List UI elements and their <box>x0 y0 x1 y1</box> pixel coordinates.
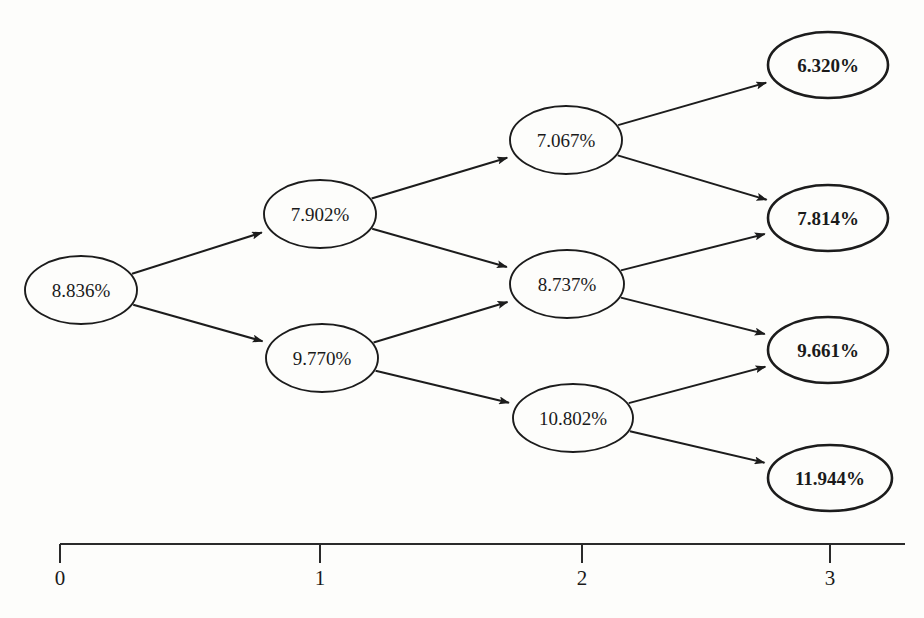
node-rate-label: 10.802% <box>539 408 607 429</box>
axis-tick-label-1: 1 <box>315 566 326 590</box>
tree-edge-n1d-to-n2ud <box>374 302 508 342</box>
tree-node-n1u[interactable]: 7.902% <box>264 180 376 248</box>
tree-diagram-canvas: 8.836%7.902%9.770%7.067%8.737%10.802%6.3… <box>0 0 924 618</box>
tree-edge-n2dd-to-n3d <box>630 431 765 462</box>
tree-node-n2ud[interactable]: 8.737% <box>510 250 624 318</box>
tree-edge-n2ud-to-n3b <box>621 234 765 270</box>
tree-edge-n2ud-to-n3c <box>621 298 765 334</box>
tree-edge-n1u-to-n2ud <box>372 229 507 267</box>
tree-node-n3c[interactable]: 9.661% <box>768 317 888 383</box>
tree-node-n3b[interactable]: 7.814% <box>768 185 888 251</box>
node-rate-label: 7.067% <box>537 130 596 151</box>
tree-edge-n1d-to-n2dd <box>376 371 509 403</box>
tree-node-n3d[interactable]: 11.944% <box>768 445 892 511</box>
axis-tick-label-0: 0 <box>55 566 66 590</box>
tree-nodes-group: 8.836%7.902%9.770%7.067%8.737%10.802%6.3… <box>25 32 892 511</box>
node-rate-label: 6.320% <box>797 55 859 76</box>
tree-node-n2uu[interactable]: 7.067% <box>510 106 622 174</box>
tree-edge-n2uu-to-n3b <box>618 155 767 199</box>
node-rate-label: 7.814% <box>797 208 859 229</box>
node-rate-label: 9.661% <box>797 340 859 361</box>
tree-node-n1d[interactable]: 9.770% <box>266 324 378 392</box>
tree-node-n0[interactable]: 8.836% <box>25 256 137 324</box>
tree-node-n2dd[interactable]: 10.802% <box>513 384 633 452</box>
tree-edges-group <box>132 83 767 463</box>
axis-tick-label-2: 2 <box>577 566 588 590</box>
time-axis-group: 0123 <box>55 544 905 590</box>
tree-edge-n2dd-to-n3c <box>629 367 766 403</box>
tree-node-n3a[interactable]: 6.320% <box>768 32 888 98</box>
node-rate-label: 9.770% <box>293 348 352 369</box>
node-rate-label: 8.836% <box>52 280 111 301</box>
tree-edge-n0-to-n1d <box>133 305 262 341</box>
axis-tick-label-3: 3 <box>825 566 836 590</box>
tree-edge-n1u-to-n2uu <box>372 158 508 199</box>
node-rate-label: 8.737% <box>538 274 597 295</box>
tree-edge-n2uu-to-n3a <box>618 83 766 125</box>
node-rate-label: 7.902% <box>291 204 350 225</box>
tree-edge-n0-to-n1u <box>132 233 262 274</box>
node-rate-label: 11.944% <box>795 468 865 489</box>
binomial-tree-svg: 8.836%7.902%9.770%7.067%8.737%10.802%6.3… <box>0 0 924 618</box>
